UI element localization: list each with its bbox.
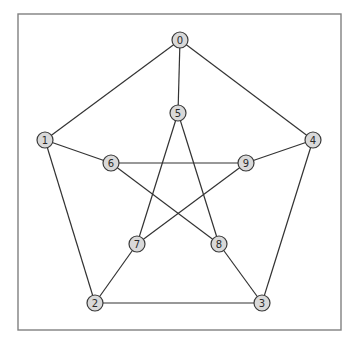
node-label: 8	[216, 239, 222, 250]
node-label: 3	[259, 298, 265, 309]
edge-3-8	[219, 244, 262, 303]
node-label: 1	[42, 135, 48, 146]
node-7: 7	[129, 236, 145, 252]
edge-1-2	[45, 140, 95, 303]
node-label: 5	[175, 108, 181, 119]
node-label: 7	[134, 239, 140, 250]
node-1: 1	[37, 132, 53, 148]
edge-2-7	[95, 244, 137, 303]
edge-7-9	[137, 163, 246, 244]
edge-0-1	[45, 40, 180, 140]
edge-1-6	[45, 140, 111, 163]
node-6: 6	[103, 155, 119, 171]
node-0: 0	[172, 32, 188, 48]
edge-4-9	[246, 140, 313, 163]
petersen-graph-diagram: 0123456789	[0, 0, 359, 348]
node-4: 4	[305, 132, 321, 148]
edge-0-5	[178, 40, 180, 113]
node-8: 8	[211, 236, 227, 252]
edge-3-4	[262, 140, 313, 303]
edge-8-5	[178, 113, 219, 244]
edge-4-0	[180, 40, 313, 140]
node-label: 6	[108, 158, 114, 169]
node-label: 2	[92, 298, 98, 309]
node-9: 9	[238, 155, 254, 171]
node-label: 4	[310, 135, 316, 146]
node-3: 3	[254, 295, 270, 311]
node-5: 5	[170, 105, 186, 121]
edges-layer	[45, 40, 313, 303]
edge-6-8	[111, 163, 219, 244]
node-2: 2	[87, 295, 103, 311]
edge-5-7	[137, 113, 178, 244]
node-label: 0	[177, 35, 183, 46]
node-label: 9	[243, 158, 249, 169]
